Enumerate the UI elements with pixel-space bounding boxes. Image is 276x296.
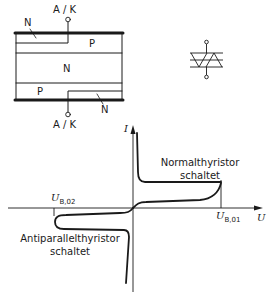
caption-antiparallel-thyristor: Antiparallelthyristor schaltet xyxy=(10,232,130,258)
i-axis-label: I xyxy=(124,124,128,134)
top-terminal-label: A / K xyxy=(53,5,76,15)
ub01-subscript: B,01 xyxy=(224,216,240,224)
caption-normal-thyristor: Normalthyristor schaltet xyxy=(150,156,250,182)
figure-canvas: A / K A / K N P N P N I U UB,01 UB,02 No… xyxy=(0,0,276,296)
ub02-label: UB,02 xyxy=(51,193,75,206)
ub01-label: UB,01 xyxy=(216,211,240,224)
layer-label-bottom-p: P xyxy=(37,87,43,97)
caption-anti-line2: schaltet xyxy=(10,245,130,258)
layer-label-middle-n: N xyxy=(63,64,70,74)
u-axis-arrow xyxy=(254,206,263,211)
layer-label-top-p: P xyxy=(89,39,95,49)
caption-normal-line2: schaltet xyxy=(150,169,250,182)
triac-symbol xyxy=(190,40,223,79)
layer-label-top-n: N xyxy=(24,18,31,28)
caption-normal-line1: Normalthyristor xyxy=(150,156,250,169)
characteristic-axes xyxy=(8,125,263,292)
bottom-terminal-dot xyxy=(66,112,71,117)
ub02-subscript: B,02 xyxy=(59,198,75,206)
bottom-terminal-label: A / K xyxy=(53,120,76,130)
i-axis-arrow xyxy=(131,125,136,134)
layer-label-bottom-n: N xyxy=(101,105,108,115)
u-axis-label: U xyxy=(257,213,265,223)
top-terminal-dot xyxy=(66,17,71,22)
caption-anti-line1: Antiparallelthyristor xyxy=(10,232,130,245)
